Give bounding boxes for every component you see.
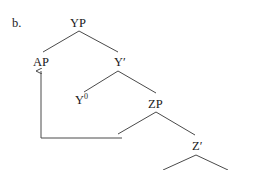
branch-yp-ybar xyxy=(79,31,118,52)
branch-zbar-left xyxy=(163,155,196,170)
node-ybar: Y′ xyxy=(114,55,126,69)
node-zp: ZP xyxy=(148,97,163,111)
branch-zp-left xyxy=(118,112,156,134)
example-label: b. xyxy=(12,16,21,30)
branch-ybar-zp xyxy=(118,71,156,93)
node-ap: AP xyxy=(33,55,49,69)
node-zbar: Z′ xyxy=(192,139,203,153)
branch-zp-zbar xyxy=(156,112,195,135)
node-yp: YP xyxy=(70,16,86,30)
branch-ybar-y0 xyxy=(84,71,118,92)
node-y0: Y0 xyxy=(75,92,88,107)
branch-zbar-right xyxy=(196,155,228,170)
syntax-tree: b. YP AP Y′ Y0 ZP Z′ xyxy=(0,0,258,170)
branch-yp-ap xyxy=(43,31,79,52)
